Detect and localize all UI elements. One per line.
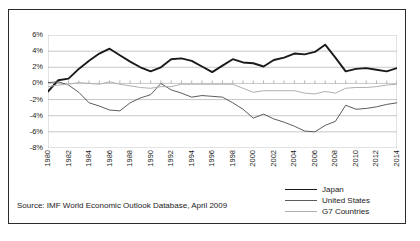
x-tick-label: 2008 xyxy=(331,150,339,167)
y-tick-label: 6% xyxy=(32,31,43,39)
x-tick-label: 1980 xyxy=(44,150,52,167)
x-tick-label: 2000 xyxy=(249,150,257,167)
x-tick-label: 1984 xyxy=(85,150,93,167)
x-axis: 1980198219841986198819901992199419961998… xyxy=(48,150,397,186)
y-tick-label: -4% xyxy=(30,112,43,120)
chart-legend: JapanUnited StatesG7 Countries xyxy=(285,184,397,218)
y-axis: 6%4%2%0%-2%-4%-6%-8% xyxy=(9,35,45,148)
x-tick-label: 1988 xyxy=(126,150,134,167)
x-tick-label: 1998 xyxy=(229,150,237,167)
x-tick-label: 2010 xyxy=(352,150,360,167)
plot-area xyxy=(48,35,397,148)
x-tick-label: 1982 xyxy=(65,150,73,167)
source-note: Source: IMF World Economic Outlook Datab… xyxy=(17,201,227,211)
legend-item-united-states: United States xyxy=(285,195,397,206)
legend-label: Japan xyxy=(322,184,344,195)
x-tick-label: 2002 xyxy=(270,150,278,167)
x-tick-label: 2006 xyxy=(311,150,319,167)
series-lines xyxy=(48,35,397,148)
chart-figure: 6%4%2%0%-2%-4%-6%-8% 1980198219841986198… xyxy=(8,9,406,224)
series-line-united-states xyxy=(48,82,397,132)
legend-item-g7-countries: G7 Countries xyxy=(285,206,397,217)
y-tick-label: 4% xyxy=(32,47,43,55)
x-tick-label: 2004 xyxy=(290,150,298,167)
legend-label: United States xyxy=(322,195,370,206)
x-tick-label: 1992 xyxy=(167,150,175,167)
x-tick-label: 2012 xyxy=(372,150,380,167)
legend-swatch xyxy=(285,200,317,201)
legend-item-japan: Japan xyxy=(285,184,397,195)
legend-swatch xyxy=(285,189,317,190)
y-tick-label: -2% xyxy=(30,96,43,104)
x-tick-label: 1986 xyxy=(106,150,114,167)
legend-swatch xyxy=(285,211,317,212)
x-tick-label: 2014 xyxy=(393,150,401,167)
x-tick-label: 1996 xyxy=(208,150,216,167)
legend-label: G7 Countries xyxy=(322,206,369,217)
y-tick-label: 0% xyxy=(32,79,43,87)
y-tick-label: -6% xyxy=(30,128,43,136)
y-tick-label: 2% xyxy=(32,63,43,71)
y-tick-label: -8% xyxy=(30,144,43,152)
series-line-g7-countries xyxy=(48,82,397,94)
x-tick-label: 1994 xyxy=(188,150,196,167)
x-tick-label: 1990 xyxy=(147,150,155,167)
